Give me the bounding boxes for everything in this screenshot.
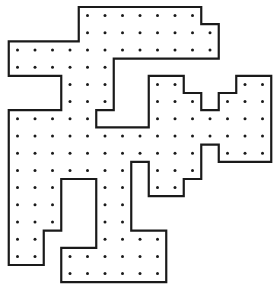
grid-dot: [34, 255, 37, 258]
grid-dot: [244, 117, 247, 120]
grid-dot: [16, 152, 19, 155]
grid-dot: [69, 255, 72, 258]
grid-dot: [261, 117, 264, 120]
grid-dot: [244, 100, 247, 103]
grid-dot: [121, 135, 124, 138]
grid-dot: [86, 66, 89, 69]
grid-dot: [191, 100, 194, 103]
grid-dot: [69, 169, 72, 172]
grid-dot: [156, 83, 159, 86]
grid-dot: [69, 66, 72, 69]
grid-dot: [139, 14, 142, 17]
grid-dot: [139, 255, 142, 258]
grid-dot: [104, 272, 107, 275]
grid-dot: [191, 135, 194, 138]
grid-dot: [209, 135, 212, 138]
grid-dot: [174, 152, 177, 155]
grid-dot: [139, 49, 142, 52]
grid-dot: [86, 135, 89, 138]
grid-dot: [51, 66, 54, 69]
grid-dot: [69, 83, 72, 86]
grid-dot: [191, 152, 194, 155]
grid-dot: [139, 272, 142, 275]
grid-dot: [174, 117, 177, 120]
grid-dot: [244, 152, 247, 155]
grid-dot: [174, 135, 177, 138]
grid-dot: [156, 238, 159, 241]
grid-dot: [16, 135, 19, 138]
grid-dot: [156, 117, 159, 120]
grid-dot: [104, 169, 107, 172]
grid-dot: [51, 169, 54, 172]
grid-dot: [104, 152, 107, 155]
grid-dot: [261, 135, 264, 138]
grid-dot: [261, 152, 264, 155]
grid-dot: [104, 203, 107, 206]
grid-dot: [191, 49, 194, 52]
grid-dot: [104, 83, 107, 86]
grid-dot: [69, 49, 72, 52]
grid-dot: [16, 117, 19, 120]
grid-dot: [174, 186, 177, 189]
grid-dot: [121, 186, 124, 189]
grid-dot: [261, 100, 264, 103]
grid-dot: [226, 152, 229, 155]
grid-dot: [156, 31, 159, 34]
grid-dot: [69, 100, 72, 103]
grid-dot: [104, 135, 107, 138]
grid-dot: [51, 186, 54, 189]
grid-dot: [174, 31, 177, 34]
grid-dot: [209, 31, 212, 34]
grid-dot: [156, 272, 159, 275]
grid-dot: [156, 100, 159, 103]
grid-dot: [191, 14, 194, 17]
grid-dot: [174, 169, 177, 172]
grid-dot: [69, 272, 72, 275]
shape-outline: [9, 7, 272, 282]
grid-dot: [51, 152, 54, 155]
grid-dot: [86, 31, 89, 34]
grid-dot: [69, 135, 72, 138]
grid-dot: [34, 49, 37, 52]
grid-dot: [51, 221, 54, 224]
grid-dot: [86, 100, 89, 103]
grid-dot: [86, 14, 89, 17]
grid-dot: [34, 117, 37, 120]
grid-dot: [226, 117, 229, 120]
grid-dot: [86, 255, 89, 258]
grid-dot: [16, 186, 19, 189]
grid-dot: [156, 135, 159, 138]
grid-dot: [51, 135, 54, 138]
grid-dot: [174, 49, 177, 52]
grid-dot: [86, 169, 89, 172]
grid-dots: [16, 14, 264, 275]
grid-dot: [16, 221, 19, 224]
grid-dot: [34, 66, 37, 69]
grid-dot: [16, 238, 19, 241]
grid-dot: [156, 169, 159, 172]
grid-dot: [69, 152, 72, 155]
grid-dot: [156, 14, 159, 17]
grid-dot: [121, 255, 124, 258]
grid-dot: [209, 117, 212, 120]
grid-dot: [69, 117, 72, 120]
grid-dot: [34, 238, 37, 241]
grid-dot: [156, 152, 159, 155]
grid-dot: [86, 152, 89, 155]
grid-dot: [34, 221, 37, 224]
grid-dot: [16, 255, 19, 258]
grid-dot: [139, 238, 142, 241]
grid-dot: [261, 83, 264, 86]
grid-dot: [121, 221, 124, 224]
grid-dot: [86, 49, 89, 52]
grid-dot: [104, 31, 107, 34]
grid-dot: [34, 186, 37, 189]
grid-dot: [51, 203, 54, 206]
grid-dot: [174, 100, 177, 103]
grid-dot: [86, 117, 89, 120]
grid-dot: [34, 135, 37, 138]
grid-dot: [121, 14, 124, 17]
grid-dot: [191, 31, 194, 34]
grid-dot: [51, 117, 54, 120]
grid-dot: [121, 152, 124, 155]
